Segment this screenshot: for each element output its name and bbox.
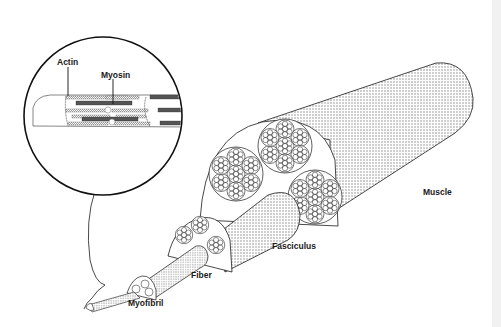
- magnified-sarcomere-callout: [24, 37, 192, 195]
- label-myofibril: Myofibril: [128, 298, 163, 308]
- label-muscle: Muscle: [423, 187, 452, 197]
- label-fasciculus: Fasciculus: [272, 241, 316, 251]
- muscle-cylinder: [200, 63, 473, 226]
- label-actin: Actin: [57, 57, 78, 67]
- muscle-structure-diagram: [0, 0, 501, 327]
- callout-connector: [84, 191, 105, 309]
- label-fiber: Fiber: [191, 270, 212, 280]
- label-myosin: Myosin: [101, 70, 130, 80]
